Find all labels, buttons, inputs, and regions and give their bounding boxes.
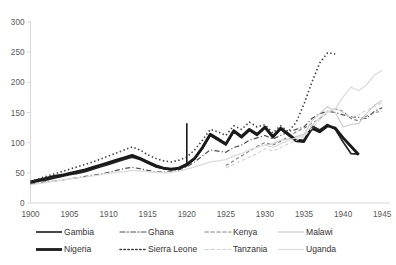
legend-label: Gambia — [64, 227, 94, 237]
legend-item-kenya[interactable]: Kenya — [205, 227, 258, 237]
x-tick-label: 1900 — [21, 210, 40, 219]
legend-label: Ghana — [148, 227, 174, 237]
legend-item-tanzania[interactable]: Tanzania — [205, 244, 268, 254]
legend-label: Malawi — [306, 227, 333, 237]
series-line-sierra-leone — [31, 53, 336, 182]
legend-item-uganda[interactable]: Uganda — [278, 244, 336, 254]
x-tick-label: 1935 — [295, 210, 314, 219]
y-tick-label: 250 — [11, 48, 25, 57]
legend-label: Sierra Leone — [148, 244, 197, 254]
x-tick-label: 1910 — [100, 210, 119, 219]
x-tick-label: 1945 — [373, 210, 392, 219]
x-tick-label: 1940 — [334, 210, 353, 219]
legend-item-sierra-leone[interactable]: Sierra Leone — [120, 244, 197, 254]
x-tick-label: 1925 — [217, 210, 236, 219]
x-tick-label: 1920 — [178, 210, 197, 219]
legend-item-nigeria[interactable]: Nigeria — [36, 244, 91, 254]
x-tick-label: 1915 — [139, 210, 158, 219]
legend-label: Kenya — [233, 227, 258, 237]
x-tick-label: 1930 — [256, 210, 275, 219]
x-tick-label: 1905 — [60, 210, 79, 219]
chart-canvas: 0501001502002503001900190519101915192019… — [0, 0, 396, 265]
y-tick-label: 0 — [20, 199, 25, 208]
series-line-malawi — [265, 100, 382, 145]
legend-item-gambia[interactable]: Gambia — [36, 227, 94, 237]
legend-label: Nigeria — [64, 244, 91, 254]
legend-item-ghana[interactable]: Ghana — [120, 227, 174, 237]
legend-label: Uganda — [306, 244, 336, 254]
y-tick-label: 50 — [15, 169, 25, 178]
y-tick-label: 300 — [11, 18, 25, 27]
legend-label: Tanzania — [233, 244, 268, 254]
y-tick-label: 100 — [11, 139, 25, 148]
legend-item-malawi[interactable]: Malawi — [278, 227, 333, 237]
y-tick-label: 150 — [11, 109, 25, 118]
line-chart: 0501001502002503001900190519101915192019… — [0, 0, 396, 265]
y-tick-label: 200 — [11, 78, 25, 87]
